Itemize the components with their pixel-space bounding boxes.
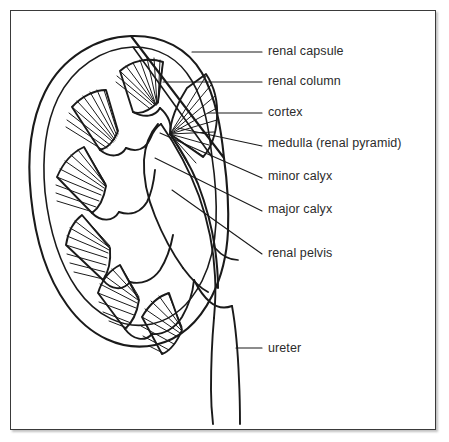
renal-pyramid-2 — [66, 90, 118, 150]
renal-pyramid-1 — [116, 58, 163, 113]
label-renal-column: renal column — [268, 75, 341, 88]
label-renal-pelvis: renal pelvis — [268, 247, 332, 260]
label-minor-calyx: minor calyx — [268, 170, 332, 183]
label-renal-capsule: renal capsule — [268, 45, 344, 58]
renal-pyramid-6 — [98, 265, 139, 329]
ureter — [211, 306, 240, 424]
kidney-diagram-drawing — [0, 0, 449, 442]
label-ureter: ureter — [268, 342, 301, 355]
label-cortex: cortex — [268, 106, 303, 119]
leader-renal-pelvis — [172, 190, 262, 254]
renal-pyramid-5 — [66, 215, 110, 280]
leader-major-calyx — [155, 158, 262, 211]
renal-capsule-outline — [29, 36, 228, 347]
kidney-diagram-figure: renal capsule renal column cortex medull… — [0, 0, 449, 442]
label-medulla-renal-pyramid: medulla (renal pyramid) — [268, 137, 402, 150]
label-major-calyx: major calyx — [268, 203, 332, 216]
renal-pyramid-4 — [56, 147, 106, 213]
